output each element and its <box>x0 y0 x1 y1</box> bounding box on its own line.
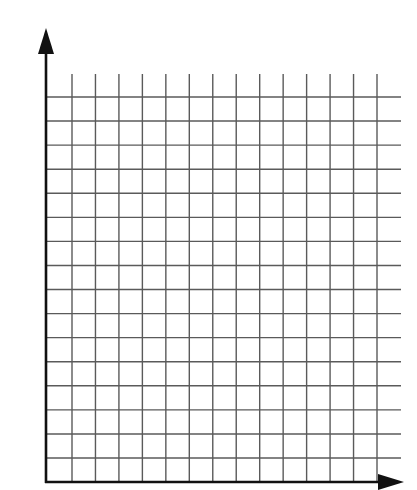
y-axis-arrow-icon <box>38 28 54 54</box>
x-axis-arrow-icon <box>378 474 404 490</box>
coordinate-grid <box>0 0 417 490</box>
grid-lines <box>46 74 401 482</box>
